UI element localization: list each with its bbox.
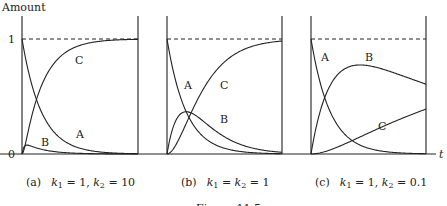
curve-b [311, 65, 426, 154]
curve-b [22, 145, 138, 154]
panel-c-label-c: C [378, 120, 386, 133]
panel-a-caption: (a)k1 = 1, k2 = 10 [26, 176, 135, 190]
panel-a-label-a: A [75, 128, 85, 141]
panel-b-curves [167, 39, 282, 154]
panel-c-label-b: B [365, 51, 373, 64]
panel-a-label-c: C [75, 54, 83, 67]
panel-b-label-b: B [220, 113, 228, 126]
panel-b-label-a: A [183, 79, 193, 92]
panel-a-label-b: B [41, 136, 49, 149]
curve-c [311, 109, 426, 154]
y-tick-1: 1 [8, 33, 15, 46]
x-axis-label: t [439, 148, 444, 161]
panel-b-caption: (b)k1 = k2 = 1 [181, 176, 270, 190]
y-axis-label: Amount [1, 1, 46, 14]
panel-c-label-a: A [320, 51, 330, 64]
svg-text:(a)k1 = 1, k2 = 10: (a)k1 = 1, k2 = 10 [26, 176, 135, 190]
svg-text:(c)k1 = 1, k2 = 0.1: (c)k1 = 1, k2 = 0.1 [315, 176, 427, 190]
panel-c-caption: (c)k1 = 1, k2 = 0.1 [315, 176, 427, 190]
panel-b-label-c: C [220, 79, 228, 92]
kinetics-figure: Amount 1 0 t C A B A C B A B C (a)k1 = 1… [0, 0, 447, 206]
figure-caption: Figure 11.5 [196, 202, 261, 206]
svg-text:(b)k1 = k2 = 1: (b)k1 = k2 = 1 [181, 176, 270, 190]
